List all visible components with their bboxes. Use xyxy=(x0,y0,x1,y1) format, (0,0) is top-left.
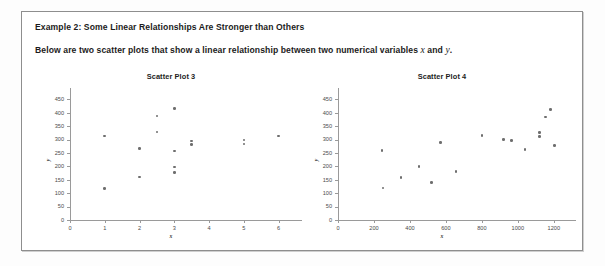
y-axis-tick-label: 50 xyxy=(310,203,332,209)
scatter-plot-3: Scatter Plot 3 0501001502002503003504004… xyxy=(40,72,302,242)
y-axis-tick xyxy=(67,180,70,181)
scatter-plot-4: Scatter Plot 4 0501001502002503003504004… xyxy=(308,72,576,242)
x-axis-tick-label: 600 xyxy=(432,225,460,231)
y-axis-tick-label: 350 xyxy=(310,123,332,129)
data-point xyxy=(382,187,385,190)
data-point xyxy=(173,107,176,110)
x-axis-tick-label: 800 xyxy=(468,225,496,231)
content-card: Example 2: Some Linear Relationships Are… xyxy=(21,11,583,251)
scatter-plot-3-title: Scatter Plot 3 xyxy=(40,72,302,81)
scatter-plot-4-canvas: 0501001502002503003504004500200400600800… xyxy=(308,84,576,242)
y-axis-tick xyxy=(335,153,338,154)
data-point xyxy=(439,141,442,144)
data-point xyxy=(418,165,421,168)
y-axis-tick xyxy=(67,207,70,208)
x-axis-tick-label: 1 xyxy=(91,225,119,231)
x-axis-tick-label: 4 xyxy=(195,225,223,231)
data-point xyxy=(538,131,541,134)
y-axis-tick-label: 150 xyxy=(310,177,332,183)
data-point xyxy=(524,148,527,151)
y-axis-tick-label: 300 xyxy=(310,136,332,142)
x-axis-tick xyxy=(244,220,245,223)
x-axis-tick-label: 3 xyxy=(160,225,188,231)
x-axis-tick xyxy=(140,220,141,223)
y-axis-tick xyxy=(67,140,70,141)
x-axis-tick xyxy=(554,220,555,223)
y-axis-tick-label: 150 xyxy=(42,177,64,183)
x-axis-tick xyxy=(338,220,339,223)
x-axis-tick xyxy=(279,220,280,223)
x-axis-tick xyxy=(446,220,447,223)
x-axis-tick xyxy=(174,220,175,223)
y-axis-tick xyxy=(335,113,338,114)
y-axis-tick xyxy=(67,126,70,127)
data-point xyxy=(553,144,556,147)
data-point xyxy=(173,166,176,169)
y-axis-line xyxy=(70,88,71,220)
x-axis-tick-label: 0 xyxy=(56,225,84,231)
x-axis-tick-label: 5 xyxy=(230,225,258,231)
data-point xyxy=(173,171,176,174)
data-point xyxy=(400,176,403,179)
x-axis-tick xyxy=(482,220,483,223)
subtitle-text-after: . xyxy=(450,45,453,55)
data-point xyxy=(103,187,106,190)
y-axis-tick xyxy=(335,193,338,194)
y-axis-tick xyxy=(335,99,338,100)
data-point xyxy=(103,135,106,138)
y-axis-tick-label: 350 xyxy=(42,123,64,129)
x-axis-title: x xyxy=(40,233,302,239)
subtitle-text-mid: and xyxy=(425,45,446,55)
subtitle-text-before: Below are two scatter plots that show a … xyxy=(35,45,421,55)
y-axis-tick-label: 100 xyxy=(310,190,332,196)
x-axis-tick-label: 400 xyxy=(396,225,424,231)
x-axis-tick xyxy=(410,220,411,223)
data-point xyxy=(138,176,141,179)
data-point xyxy=(277,135,280,138)
y-axis-title: y xyxy=(313,155,319,165)
y-axis-tick-label: 300 xyxy=(42,136,64,142)
data-point xyxy=(481,134,484,137)
data-point xyxy=(138,147,141,150)
y-axis-tick xyxy=(67,153,70,154)
data-point xyxy=(156,131,159,134)
x-axis-tick-label: 0 xyxy=(324,225,352,231)
data-point xyxy=(544,116,547,119)
scatter-plot-3-canvas: 0501001502002503003504004500123456xy xyxy=(40,84,302,242)
y-axis-tick-label: 450 xyxy=(42,96,64,102)
y-axis-tick-label: 50 xyxy=(42,203,64,209)
y-axis-tick-label: 400 xyxy=(310,110,332,116)
y-axis-tick xyxy=(335,140,338,141)
data-point xyxy=(173,150,176,153)
y-axis-tick xyxy=(335,180,338,181)
x-axis-tick xyxy=(374,220,375,223)
y-axis-tick xyxy=(67,113,70,114)
data-point xyxy=(538,135,541,138)
y-axis-tick-label: 400 xyxy=(42,110,64,116)
x-axis-tick-label: 1000 xyxy=(504,225,532,231)
data-point xyxy=(455,170,458,173)
x-axis-tick-label: 200 xyxy=(360,225,388,231)
x-axis-tick xyxy=(105,220,106,223)
y-axis-line xyxy=(338,88,339,220)
data-point xyxy=(430,181,433,184)
x-axis-tick xyxy=(518,220,519,223)
y-axis-tick xyxy=(67,99,70,100)
page-title: Example 2: Some Linear Relationships Are… xyxy=(35,22,304,32)
x-axis-title: x xyxy=(308,233,576,239)
scatter-plot-4-title: Scatter Plot 4 xyxy=(308,72,576,81)
y-axis-tick xyxy=(335,166,338,167)
x-axis-tick-label: 6 xyxy=(265,225,293,231)
data-point xyxy=(243,143,246,146)
x-axis-tick-label: 1200 xyxy=(540,225,568,231)
data-point xyxy=(156,115,159,118)
y-axis-tick xyxy=(335,126,338,127)
y-axis-tick-label: 450 xyxy=(310,96,332,102)
y-axis-tick xyxy=(67,166,70,167)
y-axis-title: y xyxy=(45,155,51,165)
x-axis-tick-label: 2 xyxy=(126,225,154,231)
data-point xyxy=(549,108,552,111)
y-axis-tick xyxy=(335,207,338,208)
data-point xyxy=(190,140,193,143)
data-point xyxy=(243,139,246,142)
